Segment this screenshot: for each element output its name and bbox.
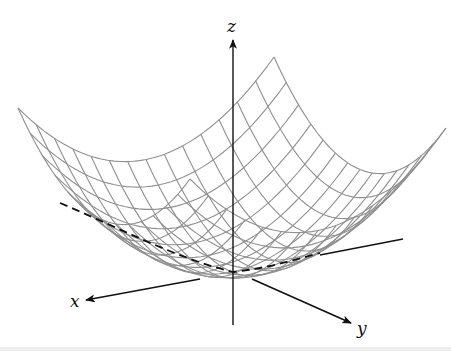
mesh-line	[79, 153, 335, 258]
mesh-line	[43, 105, 299, 209]
y-axis	[252, 279, 351, 323]
mesh-line	[165, 156, 421, 261]
y-axis-label: y	[356, 318, 367, 338]
mesh-line	[73, 149, 245, 266]
x-axis-label: x	[70, 291, 80, 311]
mesh-line	[36, 125, 208, 242]
paraboloid-surface-mesh	[18, 57, 446, 278]
mesh-line	[274, 57, 446, 174]
paraboloid-diagram: z x y	[0, 0, 451, 351]
mesh-line	[116, 173, 372, 278]
bottom-rule	[0, 347, 451, 351]
z-axis-label: z	[226, 16, 237, 36]
mesh-line	[18, 57, 274, 162]
x-axis	[86, 279, 200, 300]
mesh-line	[30, 83, 286, 188]
mesh-line	[67, 140, 323, 245]
mesh-line	[55, 124, 311, 229]
